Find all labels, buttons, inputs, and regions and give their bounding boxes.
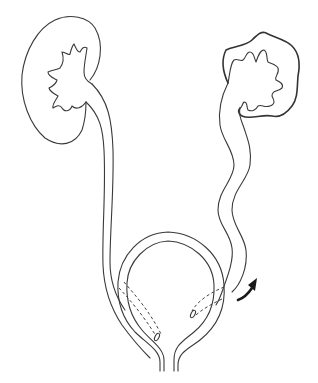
bladder bbox=[118, 232, 224, 371]
left-ureter bbox=[86, 84, 150, 358]
urinary-tract-diagram bbox=[0, 0, 318, 383]
curved-arrow-up-right-icon bbox=[238, 278, 257, 300]
left-kidney bbox=[22, 17, 101, 144]
right-kidney bbox=[223, 32, 299, 117]
